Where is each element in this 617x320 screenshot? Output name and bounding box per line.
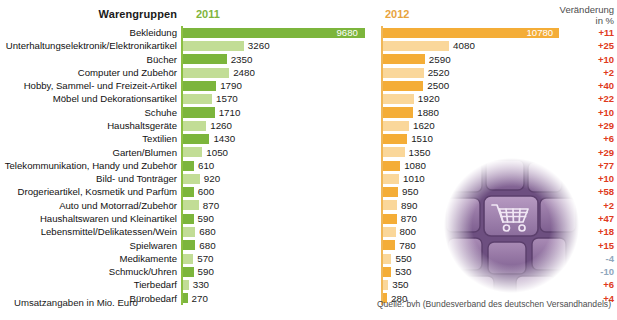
table-row: Computer und Zubehör2480 bbox=[0, 66, 380, 79]
bar-fill bbox=[383, 280, 389, 290]
value-label-2011: 330 bbox=[193, 278, 209, 291]
value-label-2011: 2350 bbox=[231, 53, 253, 66]
change-percent-label: +10 bbox=[558, 172, 614, 185]
bar-2011 bbox=[183, 54, 227, 64]
bar-fill bbox=[383, 240, 396, 250]
bar-2012 bbox=[383, 161, 401, 171]
value-label-2012: 2590 bbox=[429, 53, 451, 66]
table-row: Spielwaren680 bbox=[0, 239, 380, 252]
bar-fill bbox=[183, 240, 196, 250]
bar-2011 bbox=[183, 147, 203, 157]
value-label-2011: 9680 bbox=[337, 26, 358, 39]
table-row: Möbel und Dekorationsartikel1570 bbox=[0, 92, 380, 105]
change-percent-label: -4 bbox=[558, 252, 614, 265]
category-label: Bekleidung bbox=[1, 26, 177, 39]
value-label-2012: 350 bbox=[392, 278, 408, 291]
table-row: Unterhaltungselektronik/Elektronikartike… bbox=[0, 39, 380, 52]
bar-2012 bbox=[383, 280, 389, 290]
table-row: Medikamente570 bbox=[0, 252, 380, 265]
bar-fill bbox=[183, 161, 194, 171]
table-row: 2590+10 bbox=[381, 53, 617, 66]
table-row: 1510+6 bbox=[381, 132, 617, 145]
table-row: Auto und Motorrad/Zubehör870 bbox=[0, 199, 380, 212]
value-label-2012: 1010 bbox=[403, 172, 425, 185]
bar-fill bbox=[183, 41, 244, 51]
bar-2012 bbox=[383, 214, 397, 224]
chart-container: Warengruppen 2011 2012 Veränderung in % bbox=[0, 0, 617, 320]
category-label: Unterhaltungselektronik/Elektronikartike… bbox=[1, 39, 177, 52]
value-label-2012: 950 bbox=[402, 185, 418, 198]
bar-2012 bbox=[383, 107, 414, 117]
bar-fill bbox=[183, 81, 217, 91]
change-percent-label: +29 bbox=[558, 146, 614, 159]
bar-fill bbox=[183, 54, 227, 64]
bar-2011 bbox=[183, 107, 215, 117]
value-label-2011: 590 bbox=[198, 265, 214, 278]
change-percent-label: +18 bbox=[558, 225, 614, 238]
column-header-veraenderung: Veränderung in % bbox=[500, 4, 614, 26]
category-label: Spielwaren bbox=[1, 239, 177, 252]
category-label: Textilien bbox=[1, 132, 177, 145]
value-label-2012: 4080 bbox=[453, 39, 475, 52]
category-label: Drogerieartikel, Kosmetik und Parfüm bbox=[1, 185, 177, 198]
value-label-2011: 590 bbox=[198, 212, 214, 225]
veraenderung-line2: in % bbox=[500, 15, 614, 26]
chart-panel-2012: 10780+114080+252590+102520+22500+401920+… bbox=[381, 26, 617, 305]
bar-2012 bbox=[383, 147, 405, 157]
table-row: 4080+25 bbox=[381, 39, 617, 52]
bar-fill bbox=[183, 94, 213, 104]
bar-2012 bbox=[383, 240, 396, 250]
footnote-source: Quelle: bvh (Bundesverband des deutschen… bbox=[377, 299, 611, 309]
value-label-2012: 1920 bbox=[418, 92, 440, 105]
table-row: Haushaltswaren und Kleinartikel590 bbox=[0, 212, 380, 225]
bar-fill bbox=[383, 134, 408, 144]
value-label-2011: 920 bbox=[204, 172, 220, 185]
bar-2011 bbox=[183, 121, 207, 131]
change-percent-label: +58 bbox=[558, 185, 614, 198]
table-row: 800+18 bbox=[381, 225, 617, 238]
bar-fill bbox=[183, 187, 194, 197]
bar-2012 bbox=[383, 41, 450, 51]
value-label-2011: 1050 bbox=[206, 146, 228, 159]
bar-fill bbox=[383, 147, 405, 157]
table-row: Textilien1430 bbox=[0, 132, 380, 145]
value-label-2011: 680 bbox=[199, 239, 215, 252]
bar-fill bbox=[383, 94, 414, 104]
bar-2012 bbox=[383, 227, 396, 237]
category-label: Lebensmittel/Delikatessen/Wein bbox=[1, 225, 177, 238]
value-label-2012: 2520 bbox=[428, 66, 450, 79]
table-row: 1010+10 bbox=[381, 172, 617, 185]
category-label: Haushaltsgeräte bbox=[1, 119, 177, 132]
value-label-2012: 530 bbox=[395, 265, 411, 278]
change-percent-label: +29 bbox=[558, 119, 614, 132]
value-label-2012: 1080 bbox=[404, 159, 426, 172]
table-row: 1350+29 bbox=[381, 146, 617, 159]
chart-panel-2011: Bekleidung9680Unterhaltungselektronik/El… bbox=[0, 26, 380, 305]
bar-2011 bbox=[183, 187, 194, 197]
table-row: 1920+22 bbox=[381, 92, 617, 105]
bar-2012 bbox=[383, 134, 408, 144]
table-row: Garten/Blumen1050 bbox=[0, 146, 380, 159]
bar-2012 bbox=[383, 267, 392, 277]
value-label-2012: 1350 bbox=[409, 146, 431, 159]
change-percent-label: +2 bbox=[558, 66, 614, 79]
bar-fill bbox=[183, 227, 196, 237]
value-label-2011: 600 bbox=[198, 185, 214, 198]
table-row: Schuhe1710 bbox=[0, 106, 380, 119]
column-header-2012: 2012 bbox=[385, 8, 409, 20]
value-label-2012: 1880 bbox=[417, 106, 439, 119]
table-row: Drogerieartikel, Kosmetik und Parfüm600 bbox=[0, 185, 380, 198]
bar-fill bbox=[383, 200, 398, 210]
table-row: Telekommunikation, Handy und Zubehör610 bbox=[0, 159, 380, 172]
change-percent-label: +40 bbox=[558, 79, 614, 92]
bar-fill bbox=[383, 227, 396, 237]
category-label: Haushaltswaren und Kleinartikel bbox=[1, 212, 177, 225]
value-label-2011: 1260 bbox=[210, 119, 232, 132]
value-label-2011: 1570 bbox=[216, 92, 238, 105]
bar-2012 bbox=[383, 254, 392, 264]
value-label-2012: 800 bbox=[400, 225, 416, 238]
change-percent-label: +6 bbox=[558, 278, 614, 291]
bar-fill bbox=[183, 267, 194, 277]
value-label-2011: 610 bbox=[198, 159, 214, 172]
bar-2011 bbox=[183, 68, 230, 78]
